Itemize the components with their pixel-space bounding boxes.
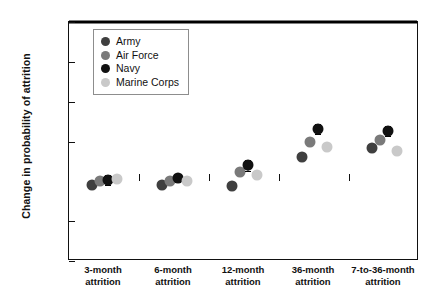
x-category-label-line: attrition [292, 276, 335, 288]
legend-item: Air Force [101, 49, 179, 63]
data-point-marker [321, 142, 332, 153]
x-category-label: 6-monthattrition [154, 264, 191, 287]
x-category-label-line: 12-month [222, 264, 265, 276]
y-tick-mark [69, 62, 75, 63]
legend-item: Navy [101, 62, 179, 76]
x-category-label-line: attrition [351, 276, 414, 288]
legend-item-label: Army [116, 35, 141, 49]
legend-item: Army [101, 35, 179, 49]
x-category-label-line: attrition [84, 276, 121, 288]
data-point-marker [111, 173, 122, 184]
legend-item-label: Navy [116, 62, 140, 76]
x-group-separator [279, 174, 280, 181]
x-category-label: 36-monthattrition [292, 264, 335, 287]
y-tick-mark [69, 102, 75, 103]
data-point-marker [374, 134, 385, 145]
y-tick-mark [69, 261, 75, 262]
legend-swatch-icon [101, 51, 110, 60]
data-point-marker [382, 126, 393, 137]
plot-area: ArmyAir ForceNavyMarine Corps [68, 21, 418, 260]
x-category-label-line: 3-month [84, 264, 121, 276]
legend-item-label: Marine Corps [116, 76, 179, 90]
chart-legend: ArmyAir ForceNavyMarine Corps [93, 29, 189, 95]
data-point-marker [251, 169, 262, 180]
data-point-marker [226, 181, 237, 192]
x-group-separator [209, 174, 210, 181]
zero-reference-line [69, 21, 417, 24]
data-point-marker [296, 151, 307, 162]
error-bar-cap [245, 171, 251, 172]
x-category-label: 3-monthattrition [84, 264, 121, 287]
x-category-label-line: attrition [222, 276, 265, 288]
legend-item-label: Air Force [116, 49, 159, 63]
legend-swatch-icon [101, 78, 110, 87]
data-point-marker [304, 136, 315, 147]
x-category-label-line: 6-month [154, 264, 191, 276]
y-tick-mark [69, 142, 75, 143]
data-point-marker [242, 160, 253, 171]
y-tick-mark [69, 22, 75, 23]
legend-swatch-icon [101, 37, 110, 46]
x-category-label-line: 7-to-36-month [351, 264, 414, 276]
legend-swatch-icon [101, 64, 110, 73]
x-group-separator [349, 174, 350, 181]
x-category-label-line: attrition [154, 276, 191, 288]
x-group-separator [139, 174, 140, 181]
data-point-marker [312, 123, 323, 134]
data-point-marker [181, 175, 192, 186]
y-tick-mark [69, 221, 75, 222]
legend-item: Marine Corps [101, 76, 179, 90]
attrition-change-chart: Change in probability of attrition 0.200… [0, 0, 434, 305]
x-category-label: 12-monthattrition [222, 264, 265, 287]
x-category-label: 7-to-36-monthattrition [351, 264, 414, 287]
x-category-label-line: 36-month [292, 264, 335, 276]
data-point-marker [391, 146, 402, 157]
y-axis-title: Change in probability of attrition [20, 26, 32, 246]
